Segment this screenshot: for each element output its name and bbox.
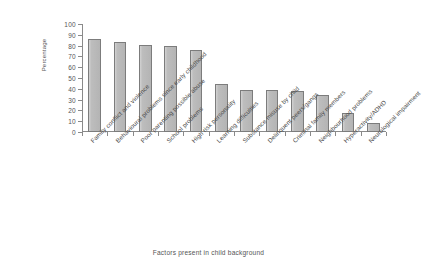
y-axis-tick-label: 0 (72, 129, 76, 136)
x-axis-tick (209, 132, 210, 136)
bar (316, 95, 329, 132)
bar (139, 45, 152, 132)
y-axis-tick-label: 70 (68, 53, 76, 60)
x-axis-tick (259, 132, 260, 136)
x-axis-tick (335, 132, 336, 136)
x-axis-tick (234, 132, 235, 136)
bar (164, 46, 177, 132)
x-axis-tick (133, 132, 134, 136)
bar (266, 90, 279, 132)
bar (291, 91, 304, 132)
bar (215, 84, 228, 132)
y-axis-tick-label: 50 (68, 75, 76, 82)
y-axis-title: Percentage (41, 20, 47, 90)
bar (190, 50, 203, 132)
x-axis-tick (183, 132, 184, 136)
y-axis-tick-label: 30 (68, 96, 76, 103)
x-axis-tick (285, 132, 286, 136)
x-axis-tick (82, 132, 83, 136)
bar (367, 123, 380, 132)
y-axis-tick-label: 80 (68, 42, 76, 49)
y-axis-tick-label: 40 (68, 85, 76, 92)
y-axis-tick-label: 10 (68, 118, 76, 125)
x-axis-tick (361, 132, 362, 136)
y-axis-tick-label: 100 (64, 21, 76, 28)
bar (240, 90, 253, 132)
bar (114, 42, 127, 132)
y-axis-tick-label: 60 (68, 64, 76, 71)
bar (342, 113, 355, 132)
x-axis-tick (310, 132, 311, 136)
x-axis-tick (158, 132, 159, 136)
x-axis-tick (107, 132, 108, 136)
x-axis-title: Factors present in child background (0, 249, 417, 256)
bar-series (82, 24, 386, 132)
y-axis-tick-label: 90 (68, 31, 76, 38)
x-axis-tick (386, 132, 387, 136)
plot-area: 0102030405060708090100 (82, 24, 386, 132)
bar (88, 39, 101, 132)
y-axis-tick-label: 20 (68, 107, 76, 114)
